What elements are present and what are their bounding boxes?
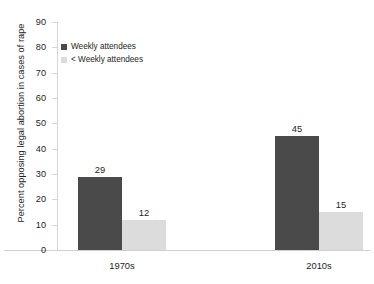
x-category-label: 2010s	[259, 260, 374, 271]
y-tick-mark	[52, 123, 57, 124]
y-tick-label: 30	[6, 169, 46, 179]
bar-1970s-less-than-weekly	[122, 220, 166, 250]
y-tick-label: 50	[6, 118, 46, 128]
bar-value-label: 12	[114, 207, 174, 218]
bar-2010s-less-than-weekly	[319, 212, 363, 250]
legend-swatch-icon	[61, 44, 67, 50]
y-tick-mark	[52, 47, 57, 48]
y-tick-label: 40	[6, 144, 46, 154]
bar-value-label: 29	[70, 164, 130, 175]
y-tick-mark	[52, 98, 57, 99]
y-tick-mark	[52, 73, 57, 74]
y-tick-label: 0	[6, 245, 46, 255]
legend-item-weekly-attendees[interactable]: Weekly attendees	[61, 41, 143, 52]
y-tick-mark	[52, 149, 57, 150]
y-tick-mark	[52, 199, 57, 200]
bar-2010s-weekly	[275, 136, 319, 250]
x-category-label: 1970s	[62, 260, 182, 271]
bar-chart: Percent opposing legal abortion in cases…	[0, 0, 374, 284]
y-tick-label: 80	[6, 42, 46, 52]
y-tick-mark	[52, 225, 57, 226]
legend-swatch-icon	[61, 57, 67, 63]
legend: Weekly attendees < Weekly attendees	[61, 41, 143, 67]
y-tick-label: 70	[6, 68, 46, 78]
bar-value-label: 45	[267, 123, 327, 134]
y-tick-mark	[52, 174, 57, 175]
legend-item-label: Weekly attendees	[71, 42, 136, 51]
y-tick-mark	[52, 22, 57, 23]
y-axis-line	[57, 22, 58, 251]
y-tick-label: 10	[6, 220, 46, 230]
legend-item-less-than-weekly-attendees[interactable]: < Weekly attendees	[61, 54, 143, 65]
y-tick-mark	[52, 250, 57, 251]
legend-item-label: < Weekly attendees	[71, 55, 143, 64]
y-tick-label: 20	[6, 194, 46, 204]
y-tick-label: 90	[6, 17, 46, 27]
y-tick-label: 60	[6, 93, 46, 103]
x-axis-baseline	[4, 250, 370, 251]
bar-value-label: 15	[311, 199, 371, 210]
